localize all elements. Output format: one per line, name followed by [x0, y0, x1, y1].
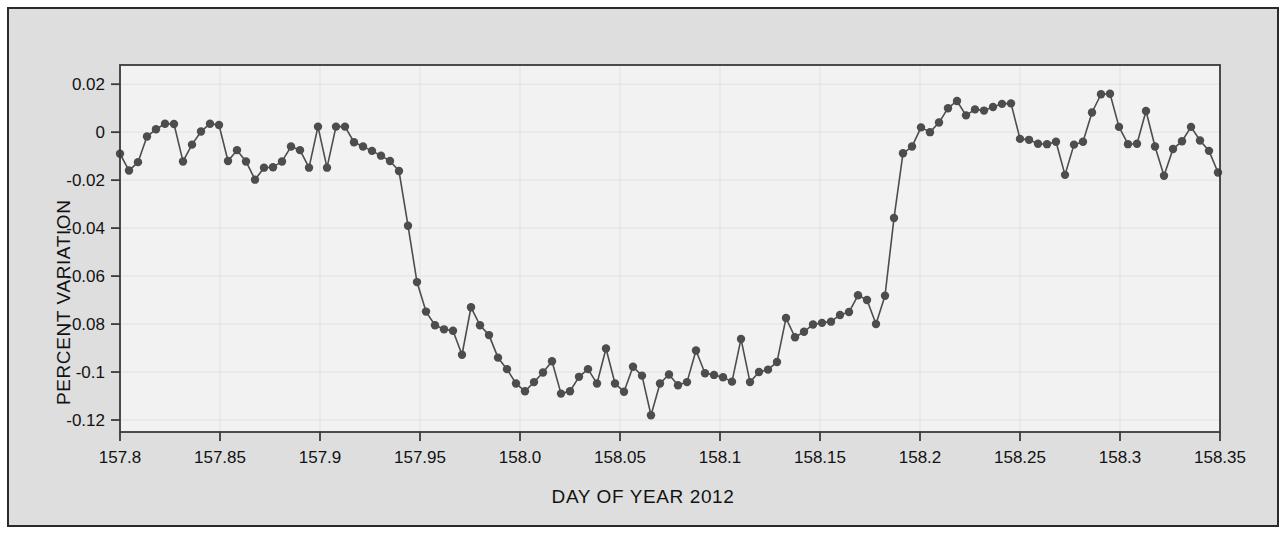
- data-point-marker: [1097, 90, 1105, 98]
- data-point-marker: [584, 365, 592, 373]
- data-point-marker: [215, 121, 223, 129]
- data-point-marker: [863, 296, 871, 304]
- x-tick-label: 157.8: [99, 448, 142, 467]
- data-point-marker: [908, 142, 916, 150]
- data-point-marker: [170, 120, 178, 128]
- data-point-marker: [782, 314, 790, 322]
- data-point-marker: [719, 373, 727, 381]
- data-point-marker: [737, 335, 745, 343]
- data-point-marker: [1205, 147, 1213, 155]
- x-tick-label: 158.05: [594, 448, 646, 467]
- data-point-marker: [1214, 168, 1222, 176]
- data-point-marker: [602, 344, 610, 352]
- data-point-marker: [1151, 142, 1159, 150]
- data-point-marker: [854, 291, 862, 299]
- data-point-marker: [242, 157, 250, 165]
- data-point-marker: [665, 370, 673, 378]
- data-point-marker: [836, 311, 844, 319]
- data-point-marker: [755, 368, 763, 376]
- data-point-marker: [1016, 135, 1024, 143]
- x-tick-label: 158.0: [499, 448, 542, 467]
- data-point-marker: [674, 381, 682, 389]
- data-point-marker: [692, 346, 700, 354]
- data-point-marker: [125, 166, 133, 174]
- data-point-marker: [323, 163, 331, 171]
- data-point-marker: [728, 377, 736, 385]
- data-point-marker: [1034, 139, 1042, 147]
- x-tick-label: 157.9: [299, 448, 342, 467]
- data-point-marker: [521, 387, 529, 395]
- data-point-marker: [998, 100, 1006, 108]
- data-point-marker: [1070, 140, 1078, 148]
- data-point-marker: [557, 389, 565, 397]
- data-point-marker: [1142, 107, 1150, 115]
- data-point-marker: [899, 149, 907, 157]
- data-point-marker: [1043, 140, 1051, 148]
- data-point-marker: [404, 222, 412, 230]
- data-point-marker: [1187, 123, 1195, 131]
- data-point-marker: [548, 357, 556, 365]
- data-point-marker: [152, 125, 160, 133]
- data-point-marker: [260, 163, 268, 171]
- data-point-marker: [917, 123, 925, 131]
- data-point-marker: [746, 378, 754, 386]
- data-point-marker: [980, 106, 988, 114]
- data-point-marker: [1025, 136, 1033, 144]
- data-point-marker: [341, 122, 349, 130]
- data-point-marker: [827, 317, 835, 325]
- data-point-marker: [845, 308, 853, 316]
- data-point-marker: [233, 146, 241, 154]
- data-point-marker: [575, 373, 583, 381]
- data-point-marker: [251, 175, 259, 183]
- data-point-marker: [629, 363, 637, 371]
- data-point-marker: [440, 325, 448, 333]
- data-point-marker: [179, 157, 187, 165]
- data-point-marker: [458, 351, 466, 359]
- x-tick-label: 158.35: [1194, 448, 1246, 467]
- data-point-marker: [791, 333, 799, 341]
- x-tick-label: 158.25: [994, 448, 1046, 467]
- x-tick-label: 157.95: [394, 448, 446, 467]
- data-point-marker: [1124, 140, 1132, 148]
- data-point-marker: [485, 331, 493, 339]
- data-point-marker: [701, 369, 709, 377]
- y-tick-label: 0: [96, 123, 105, 142]
- data-point-marker: [314, 122, 322, 130]
- data-point-marker: [386, 157, 394, 165]
- data-point-marker: [1133, 139, 1141, 147]
- y-tick-label: -0.12: [66, 411, 105, 430]
- data-point-marker: [1061, 171, 1069, 179]
- x-tick-label: 158.15: [794, 448, 846, 467]
- y-tick-label: -0.1: [76, 363, 105, 382]
- data-point-marker: [1178, 137, 1186, 145]
- data-point-marker: [881, 292, 889, 300]
- y-axis-title: PERCENT VARIATION: [53, 199, 75, 405]
- data-point-marker: [287, 142, 295, 150]
- data-point-marker: [620, 388, 628, 396]
- data-point-marker: [1160, 172, 1168, 180]
- x-tick-label: 158.2: [899, 448, 942, 467]
- data-point-marker: [197, 127, 205, 135]
- y-tick-label: -0.02: [66, 171, 105, 190]
- data-point-marker: [935, 118, 943, 126]
- data-point-marker: [944, 104, 952, 112]
- data-point-marker: [656, 379, 664, 387]
- data-point-marker: [269, 163, 277, 171]
- x-tick-label: 158.1: [699, 448, 742, 467]
- data-point-marker: [206, 120, 214, 128]
- data-point-marker: [809, 320, 817, 328]
- figure-container: 157.8157.85157.9157.95158.0158.05158.115…: [0, 0, 1286, 534]
- data-point-marker: [953, 97, 961, 105]
- data-point-marker: [710, 371, 718, 379]
- data-point-marker: [1106, 90, 1114, 98]
- transit-light-curve-chart: 157.8157.85157.9157.95158.0158.05158.115…: [9, 9, 1281, 529]
- data-point-marker: [476, 321, 484, 329]
- data-point-marker: [1052, 138, 1060, 146]
- data-point-marker: [1088, 108, 1096, 116]
- data-point-marker: [422, 307, 430, 315]
- data-point-marker: [332, 122, 340, 130]
- x-axis-title: DAY OF YEAR 2012: [0, 486, 1286, 508]
- data-point-marker: [962, 111, 970, 119]
- data-point-marker: [872, 320, 880, 328]
- data-point-marker: [395, 167, 403, 175]
